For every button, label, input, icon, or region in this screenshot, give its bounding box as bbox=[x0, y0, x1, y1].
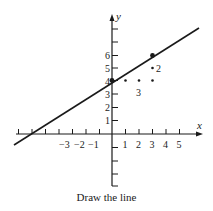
y-tick-label: 3 bbox=[105, 89, 110, 100]
y-axis-label: y bbox=[115, 10, 121, 22]
figure-caption: Draw the line bbox=[0, 191, 213, 203]
x-axis-label: x bbox=[196, 119, 202, 131]
x-tick-label: 3 bbox=[150, 139, 155, 150]
point-3-6 bbox=[150, 53, 155, 58]
point-0-4 bbox=[110, 78, 115, 83]
step-dot-3-4 bbox=[151, 79, 154, 82]
y-tick-label: 2 bbox=[105, 102, 110, 113]
y-tick-label: 6 bbox=[105, 50, 110, 61]
y-tick-label: 1 bbox=[105, 115, 110, 126]
y-tick-labels: 1 2 3 4 5 6 bbox=[105, 50, 110, 126]
x-tick-label: 4 bbox=[163, 139, 168, 150]
x-tick-labels: −3 −2 −1 1 2 3 4 5 bbox=[59, 139, 182, 150]
step-dot-3-5 bbox=[151, 67, 154, 70]
y-ticks bbox=[112, 29, 118, 186]
x-tick-label: 2 bbox=[136, 139, 141, 150]
line-graph: x y −3 −2 −1 1 2 bbox=[0, 0, 213, 211]
x-ticks bbox=[19, 129, 180, 134]
y-tick-label: 5 bbox=[105, 63, 110, 74]
step-dot-1-4 bbox=[124, 79, 127, 82]
x-tick-label: 5 bbox=[177, 139, 182, 150]
x-tick-label: 1 bbox=[123, 139, 128, 150]
y-axis-arrow-icon bbox=[110, 14, 115, 21]
rise-label: 2 bbox=[156, 63, 161, 74]
run-label: 3 bbox=[136, 87, 141, 98]
x-tick-label: −1 bbox=[88, 139, 99, 150]
x-tick-label: −2 bbox=[74, 139, 85, 150]
x-tick-label: −3 bbox=[59, 139, 70, 150]
x-axis-arrow-icon bbox=[196, 132, 203, 137]
step-dot-2-4 bbox=[138, 79, 141, 82]
plotted-line bbox=[14, 28, 199, 145]
